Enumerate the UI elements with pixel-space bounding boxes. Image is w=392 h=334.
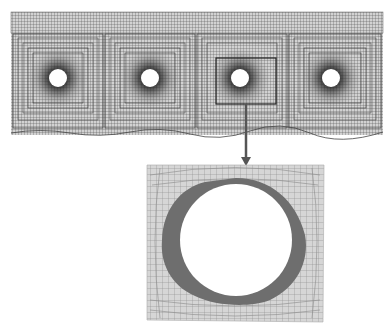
detail-opening — [180, 184, 292, 296]
opening-3 — [231, 69, 249, 87]
opening-2 — [141, 69, 159, 87]
mesh-figure — [0, 0, 392, 334]
top-mesh — [11, 12, 383, 139]
opening-1 — [49, 69, 67, 87]
detail-panel — [147, 165, 324, 322]
opening-4 — [322, 69, 340, 87]
